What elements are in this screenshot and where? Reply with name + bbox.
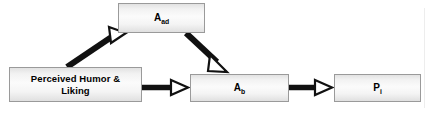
node-aad-subscript: ad: [161, 18, 169, 25]
diagram-canvas: Aad Perceived Humor & Liking Ab Pi: [0, 0, 437, 117]
node-pi-subscript: i: [380, 88, 382, 95]
node-attitude-toward-brand[interactable]: Ab: [190, 74, 289, 102]
edge-ab-to-pi: [289, 80, 332, 95]
node-humor-label: Perceived Humor & Liking: [28, 73, 123, 95]
node-pi-label: Pi: [370, 82, 385, 94]
node-perceived-humor-liking[interactable]: Perceived Humor & Liking: [9, 67, 142, 102]
edge-humor-to-ab: [142, 80, 188, 95]
node-attitude-toward-ad[interactable]: Aad: [118, 3, 205, 33]
node-purchase-intention[interactable]: Pi: [334, 74, 421, 102]
node-ab-label: Ab: [231, 82, 248, 94]
edge-aad-to-ab: [186, 33, 227, 72]
node-aad-label: Aad: [151, 12, 172, 24]
node-ab-subscript: b: [241, 88, 245, 95]
edge-humor-to-aad: [67, 27, 126, 67]
